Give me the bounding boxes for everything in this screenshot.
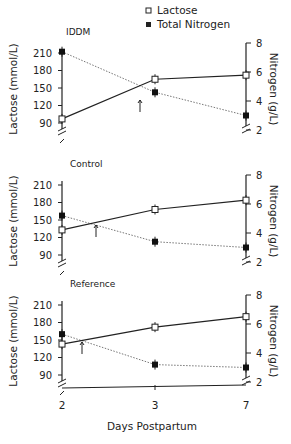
left-tick: 150 — [33, 335, 52, 346]
nitrogen-point — [152, 89, 158, 95]
left-tick: 90 — [39, 370, 52, 381]
panel-title: IDDM — [66, 27, 90, 37]
right-tick: 4 — [256, 228, 262, 239]
panel-title: Reference — [70, 279, 116, 289]
lactose-point — [243, 72, 249, 78]
left-tick: 90 — [39, 118, 52, 129]
legend: Lactose Total Nitrogen — [146, 4, 230, 30]
lactose-line — [62, 200, 246, 230]
panel-control: 21018015012090Lactose (mmol/L)8642Nitrog… — [7, 159, 280, 275]
right-tick: 8 — [256, 170, 262, 181]
left-axis-label: Lactose (mmol/L) — [7, 175, 19, 266]
right-tick: 8 — [256, 38, 262, 49]
right-axis-label: Nitrogen (g/L) — [268, 185, 280, 258]
left-tick: 120 — [33, 352, 52, 363]
right-axis-label: Nitrogen (g/L) — [268, 53, 280, 126]
legend-lactose: Lactose — [157, 4, 198, 16]
x-tick-3: 3 — [152, 399, 159, 411]
left-tick: 150 — [33, 83, 52, 94]
panel-title: Control — [70, 159, 103, 169]
right-tick: 6 — [256, 67, 262, 78]
left-tick: 180 — [33, 65, 52, 76]
x-axis-label: Days Postpartum — [107, 420, 197, 432]
left-tick: 210 — [33, 48, 52, 59]
left-tick: 180 — [33, 317, 52, 328]
left-tick: 120 — [33, 232, 52, 243]
left-tick: 120 — [33, 100, 52, 111]
right-tick: 2 — [256, 377, 262, 388]
nitrogen-point — [59, 213, 65, 219]
lactose-point — [152, 207, 158, 213]
x-tick-2: 2 — [59, 399, 66, 411]
nitrogen-point — [152, 239, 158, 245]
chart-figure: Lactose Total Nitrogen 21018015012090Lac… — [0, 0, 291, 444]
nitrogen-line — [62, 52, 246, 116]
panel-reference: 21018015012090Lactose (mmol/L)8642Nitrog… — [7, 279, 280, 395]
lactose-point — [152, 76, 158, 82]
left-tick: 90 — [39, 250, 52, 261]
lactose-point — [59, 341, 65, 347]
lactose-marker-icon — [146, 8, 151, 13]
lactose-point — [59, 116, 65, 122]
nitrogen-point — [59, 331, 65, 337]
right-tick: 4 — [256, 348, 262, 359]
crossover-arrow-icon — [80, 342, 84, 354]
left-tick: 150 — [33, 215, 52, 226]
right-tick: 2 — [256, 125, 262, 136]
right-tick: 2 — [256, 257, 262, 268]
left-axis-label: Lactose (mmol/L) — [7, 43, 19, 134]
left-axis-label: Lactose (mmol/L) — [7, 295, 19, 386]
nitrogen-point — [243, 365, 249, 371]
nitrogen-point — [243, 113, 249, 119]
nitrogen-point — [59, 49, 65, 55]
lactose-point — [59, 227, 65, 233]
right-tick: 6 — [256, 319, 262, 330]
left-tick: 180 — [33, 197, 52, 208]
lactose-point — [243, 314, 249, 320]
left-tick: 210 — [33, 300, 52, 311]
x-axis: 2 3 7 Days Postpartum — [59, 385, 250, 432]
right-axis-label: Nitrogen (g/L) — [268, 305, 280, 378]
legend-nitrogen: Total Nitrogen — [156, 18, 230, 30]
right-tick: 6 — [256, 199, 262, 210]
left-tick: 210 — [33, 180, 52, 191]
crossover-arrow-icon — [94, 225, 98, 237]
lactose-point — [152, 324, 158, 330]
x-tick-7: 7 — [243, 399, 250, 411]
right-tick: 8 — [256, 290, 262, 301]
panel-iddm: 21018015012090Lactose (mmol/L)8642Nitrog… — [7, 27, 280, 143]
nitrogen-marker-icon — [146, 22, 151, 27]
lactose-point — [243, 197, 249, 203]
crossover-arrow-icon — [138, 100, 142, 112]
right-tick: 4 — [256, 96, 262, 107]
nitrogen-point — [152, 362, 158, 368]
nitrogen-point — [243, 245, 249, 251]
